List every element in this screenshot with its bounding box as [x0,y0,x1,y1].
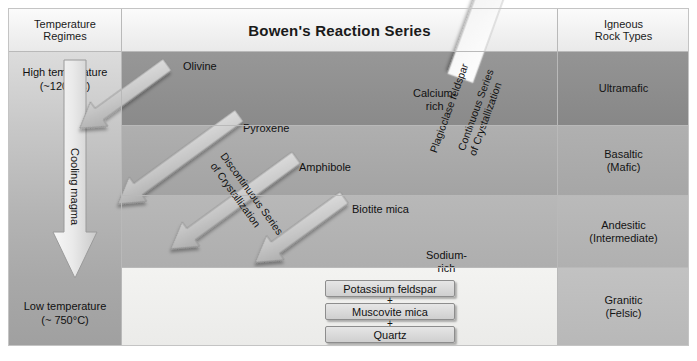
arrow-plagioclase-feldspar [432,0,560,89]
gridline-row2 [122,195,689,196]
vline-left [121,9,122,345]
label-calcium-rich: Calcium- rich [413,87,456,112]
vline-right [557,9,558,345]
diagram-canvas: Temperature Regimes Bowen's Reaction Ser… [0,0,697,361]
gridline-row3 [122,267,689,268]
mineral-label-amphibole: Amphibole [299,161,351,173]
product-label-potassium-feldspar: Potassium feldspar [343,283,437,295]
product-label-quartz: Quartz [373,329,406,341]
sodium-rich-line-1: Sodium- [426,249,467,261]
product-box-quartz: Quartz [325,326,455,343]
arrow-olivine [71,53,176,141]
calcium-rich-line-2: rich [426,100,444,112]
gridline-row1 [122,125,689,126]
calcium-rich-line-1: Calcium- [413,87,456,99]
gridline-header [9,51,689,52]
mineral-label-biotite-mica: Biotite mica [352,203,409,215]
mineral-label-olivine: Olivine [183,60,217,72]
label-sodium-rich: Sodium- rich [426,249,467,274]
mineral-label-pyroxene: Pyroxene [243,122,289,134]
product-label-muscovite-mica: Muscovite mica [352,306,428,318]
